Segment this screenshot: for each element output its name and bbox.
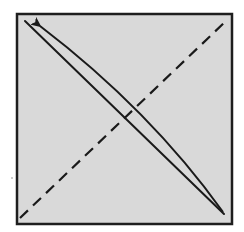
fold-diagram xyxy=(0,0,244,232)
stray-mark xyxy=(11,177,13,179)
diagram-canvas xyxy=(0,0,244,232)
